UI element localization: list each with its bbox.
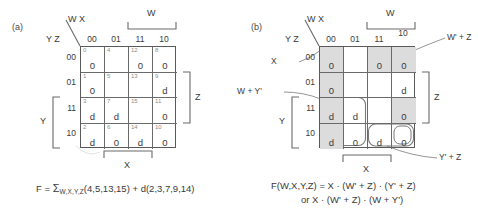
cell-value: 0 [129, 60, 152, 71]
panel-a-bracket-label-y: Y [40, 116, 46, 126]
cell-index: 6 [107, 124, 110, 131]
panel-b-side-var-label: Y Z [285, 34, 299, 44]
cell-a-r0c3: 8 0 [153, 47, 177, 73]
cell-index: 15 [131, 98, 138, 105]
cell-value: 0 [320, 60, 343, 71]
cell-a-r1c0: 1 0 [81, 73, 105, 99]
cell-index: 12 [131, 47, 138, 54]
panel-b-bracket-label-y: Y [279, 116, 285, 126]
bracket-x-bottom [104, 151, 152, 158]
panel-b-bracket-label-x: X [363, 164, 369, 174]
cell-b-r3c0: d [320, 124, 344, 150]
formula-plus: + d [130, 183, 146, 194]
cell-a-r1c1: 5 [105, 73, 129, 99]
cell-value: d [344, 111, 367, 122]
panel-b-col-header-1: 01 [343, 34, 367, 44]
cell-index: 4 [107, 47, 110, 54]
kmap-figure: (a) W X Y Z W X Y Z 00 01 11 10 00 01 11… [0, 0, 478, 215]
cell-b-r1c3: d [392, 73, 416, 99]
cell-a-r3c2: 14 d [129, 124, 153, 150]
cell-b-r0c2: 0 [368, 47, 392, 73]
panel-b-bracket-label-w: W [386, 8, 395, 18]
cell-b-r2c2 [368, 98, 392, 124]
panel-a-bracket-label-z: Z [195, 92, 201, 102]
cell-value: 0 [320, 85, 343, 96]
cell-a-r0c0: 0 0 [81, 47, 105, 73]
panel-b-tag: (b) [251, 22, 262, 32]
cell-value: d [153, 85, 177, 96]
cell-b-r0c1 [344, 47, 368, 73]
cell-value: 0 [153, 137, 177, 148]
cell-value: d [81, 137, 104, 148]
leader-line-w-plus-yprime [284, 92, 321, 99]
panel-b-formula-line2: or X · (W' + Z) · (W + Y') [301, 194, 403, 205]
panel-b-row-header-1: 01 [297, 77, 315, 87]
panel-b-top-var-label: W X [307, 14, 324, 24]
cell-value: 0 [368, 60, 391, 71]
panel-b-col-header-2: 11 [367, 34, 391, 44]
cell-index: 10 [155, 124, 162, 131]
cell-value: d [392, 85, 416, 96]
panel-b-row-header-0: 00 [297, 52, 315, 62]
panel-b-row-header-2: 11 [297, 103, 315, 113]
cell-index: 14 [131, 124, 138, 131]
formula-lhs: F = [36, 183, 53, 194]
panel-a-bracket-label-x: X [124, 160, 130, 170]
formula-sigma-sub: W,X,Y,Z [59, 188, 83, 195]
panel-a: (a) W X Y Z W X Y Z 00 01 11 10 00 01 11… [0, 0, 239, 215]
cell-b-r2c0: d [320, 98, 344, 124]
cell-a-r3c0: 2 d [81, 124, 105, 150]
cell-index: 5 [107, 73, 110, 80]
cell-value: 0 [81, 85, 104, 96]
panel-a-row-header-0: 00 [58, 52, 76, 62]
cell-a-r2c1: 7 d [105, 98, 129, 124]
group-label-yprime-plus-z: Y' + Z [439, 152, 461, 162]
group-label-w-plus-yprime: W + Y' [237, 86, 262, 96]
cell-a-r2c0: 3 d [81, 98, 105, 124]
cell-value: 0 [392, 60, 416, 71]
cell-index: 2 [83, 124, 86, 131]
cell-value: 0 [153, 111, 177, 122]
cell-b-r1c2 [368, 73, 392, 99]
panel-a-col-header-3: 10 [152, 34, 176, 44]
leader-line-wprime-plus-z [415, 38, 445, 50]
cell-value: 0 [392, 137, 416, 148]
cell-value: d [129, 137, 152, 148]
cell-a-r0c2: 12 0 [129, 47, 153, 73]
panel-a-row-header-3: 10 [58, 128, 76, 138]
formula-dontcares: (2,3,7,9,14) [146, 183, 195, 194]
cell-value: d [368, 137, 391, 148]
panel-a-kmap-grid: 0 0 4 12 0 8 0 1 0 5 13 9 [80, 46, 176, 148]
cell-value: d [320, 137, 343, 148]
panel-b-row-header-3: 10 [297, 128, 315, 138]
panel-a-col-header-2: 11 [128, 34, 152, 44]
cell-b-r0c0: 0 [320, 47, 344, 73]
cell-b-r0c3: 0 [392, 47, 416, 73]
panel-b-kmap-grid: 0 0 0 0 d d d 0 [319, 46, 415, 148]
panel-a-row-header-1: 01 [58, 77, 76, 87]
panel-a-col-header-0: 00 [80, 34, 104, 44]
cell-value: d [105, 111, 128, 122]
cell-b-r3c3: 0 [392, 124, 416, 150]
panel-a-row-header-2: 11 [58, 103, 76, 113]
cell-index: 13 [131, 73, 138, 80]
panel-a-side-var-label: Y Z [46, 34, 60, 44]
cell-index: 7 [107, 98, 110, 105]
cell-a-r1c2: 13 [129, 73, 153, 99]
bracket-x-bottom [343, 155, 391, 162]
cell-b-r3c2: d [368, 124, 392, 150]
cell-b-r2c3: 0 [392, 98, 416, 124]
cell-a-r1c3: 9 d [153, 73, 177, 99]
bracket-z-right [183, 72, 190, 123]
cell-a-r2c3: 11 0 [153, 98, 177, 124]
cell-b-r3c1: 0 [344, 124, 368, 150]
group-label-x: X [271, 56, 277, 66]
panel-a-tag: (a) [12, 22, 23, 32]
cell-index: 3 [83, 98, 86, 105]
cell-a-r2c2: 15 [129, 98, 153, 124]
cell-value: 0 [392, 111, 416, 122]
panel-b-bracket-label-z: Z [434, 92, 440, 102]
cell-value: 0 [105, 137, 128, 148]
cell-value: 0 [344, 137, 367, 148]
panel-a-formula: F = ΣW,X,Y,Z(4,5,13,15) + d(2,3,7,9,14) [36, 182, 195, 195]
